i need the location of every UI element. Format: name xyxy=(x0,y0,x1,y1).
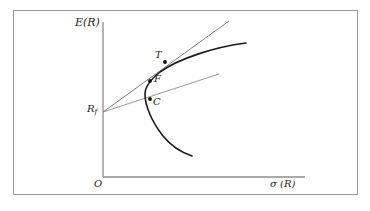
capital-market-line-tangent xyxy=(103,21,229,112)
x-axis-label: σ (R) xyxy=(270,179,295,189)
y-axis-label: E(R) xyxy=(75,17,100,28)
figure-root: E(R) σ (R) O Rf T F C xyxy=(0,0,370,211)
plot-canvas xyxy=(0,0,370,211)
point-marker-C xyxy=(148,97,152,101)
point-marker-F xyxy=(148,79,152,83)
point-label-T: T xyxy=(155,50,162,60)
risk-free-rate-label: Rf xyxy=(87,104,97,116)
point-label-F: F xyxy=(154,74,161,84)
risk-free-rate-subscript: f xyxy=(95,108,98,116)
risk-free-rate-symbol: R xyxy=(87,103,95,114)
point-label-C: C xyxy=(153,97,161,107)
capital-allocation-line-lower xyxy=(103,74,219,112)
origin-label: O xyxy=(94,179,102,189)
point-marker-T xyxy=(163,60,167,64)
